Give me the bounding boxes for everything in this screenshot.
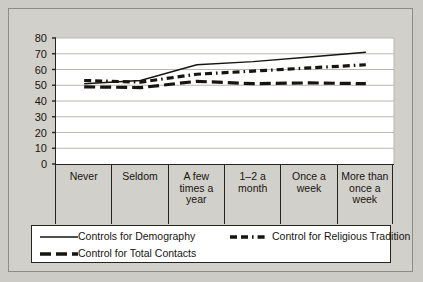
- legend-line-style-icon: [38, 228, 80, 245]
- x-axis-band-4: Once aweek: [280, 164, 336, 224]
- x-tick-label-2: A fewtimes ayear: [169, 171, 224, 206]
- legend-label-0: Controls for Demography: [78, 230, 195, 243]
- x-axis-tick-labels: NeverSeldomA fewtimes ayear1–2 amonthOnc…: [55, 164, 393, 226]
- chart-lines: [56, 38, 394, 164]
- y-tick-label-30: 30: [35, 112, 47, 122]
- plot-area-wrapper: 01020304050607080: [9, 9, 414, 184]
- legend-label-2: Control for Total Contacts: [78, 247, 196, 260]
- x-tick-label-4: Once aweek: [281, 171, 336, 194]
- legend-line-style-icon: [38, 245, 80, 262]
- x-axis-band-3: 1–2 amonth: [224, 164, 280, 224]
- y-tick-label-0: 0: [41, 159, 47, 169]
- legend-swatch-dash-dot: [228, 228, 270, 245]
- x-tick-label-3: 1–2 amonth: [225, 171, 280, 194]
- x-tick-label-5: More thanonce aweek: [338, 171, 392, 206]
- legend-line-style-icon: [228, 228, 270, 245]
- x-axis-band-2: A fewtimes ayear: [168, 164, 224, 224]
- y-tick-label-80: 80: [35, 33, 47, 43]
- y-axis-tick-labels: 01020304050607080: [21, 34, 47, 168]
- y-tick-label-50: 50: [35, 80, 47, 90]
- y-tick-label-20: 20: [35, 128, 47, 138]
- chart-figure: 01020304050607080 NeverSeldomA fewtimes …: [8, 8, 413, 272]
- series-line-1: [84, 65, 366, 82]
- y-tick-label-70: 70: [35, 49, 47, 59]
- y-tick-label-40: 40: [35, 96, 47, 106]
- legend-label-1: Control for Religious Tradition: [272, 230, 410, 243]
- x-tick-label-1: Seldom: [112, 171, 167, 183]
- chart-legend: Controls for DemographyControl for Relig…: [31, 225, 391, 263]
- x-tick-label-0: Never: [56, 171, 111, 183]
- legend-swatch-long-dash: [38, 245, 80, 262]
- y-tick-label-10: 10: [35, 143, 47, 153]
- y-tick-label-60: 60: [35, 65, 47, 75]
- x-axis-band-5: More thanonce aweek: [337, 164, 393, 224]
- series-line-0: [84, 52, 366, 84]
- plot-area: [55, 38, 394, 165]
- x-axis-band-0: Never: [55, 164, 111, 224]
- legend-swatch-solid: [38, 228, 80, 245]
- x-axis-band-1: Seldom: [111, 164, 167, 224]
